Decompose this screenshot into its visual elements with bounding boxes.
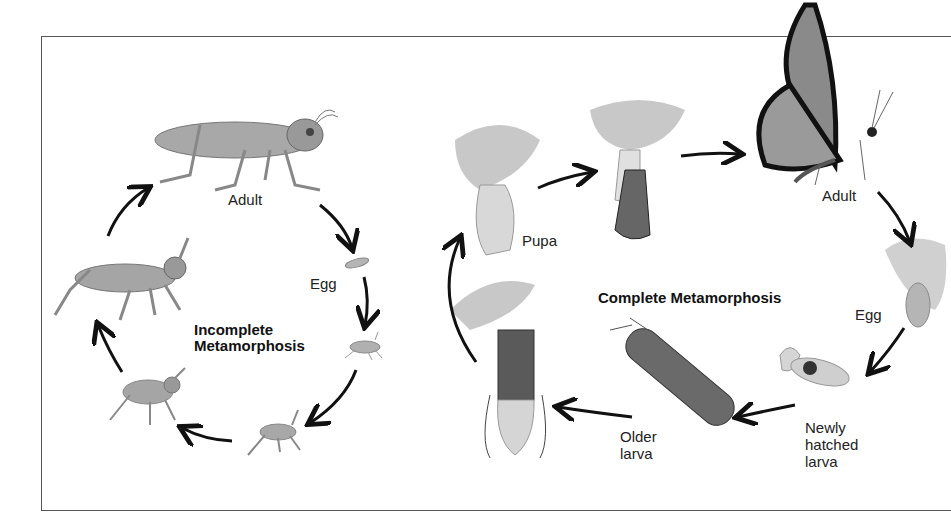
grasshopper-nymph1-icon [345, 332, 382, 360]
grasshopper-nymph2-icon [248, 410, 300, 455]
incomplete-title: Incomplete Metamorphosis [194, 322, 305, 354]
newly-hatched-line3: larva [805, 453, 858, 470]
older-larva-line1: Older [620, 428, 657, 445]
incomplete-title-line2: Metamorphosis [194, 338, 305, 354]
older-larva-label: Older larva [620, 428, 657, 462]
butterfly-adult-icon [759, 5, 893, 185]
older-larva-line2: larva [620, 445, 657, 462]
emerging-butterfly-icon [590, 100, 685, 239]
newly-hatched-line2: hatched [805, 436, 858, 453]
grasshopper-egg-icon [344, 256, 369, 270]
complete-title: Complete Metamorphosis [598, 290, 781, 306]
incomplete-adult-label: Adult [228, 191, 262, 208]
newly-hatched-larva-label: Newly hatched larva [805, 419, 858, 470]
complete-egg-label: Egg [855, 306, 882, 323]
newly-hatched-larva-icon [780, 348, 852, 392]
grasshopper-nymph3-icon [110, 368, 185, 425]
newly-hatched-line1: Newly [805, 419, 858, 436]
pupa-label: Pupa [522, 232, 557, 249]
complete-adult-label: Adult [822, 187, 856, 204]
older-larva-icon [610, 318, 741, 432]
grasshopper-adult-icon [155, 110, 338, 190]
grasshopper-nymph4-icon [55, 238, 188, 320]
prepupa-icon [450, 281, 546, 458]
butterfly-egg-icon [885, 239, 946, 327]
incomplete-egg-label: Egg [310, 275, 337, 292]
incomplete-title-line1: Incomplete [194, 322, 305, 338]
